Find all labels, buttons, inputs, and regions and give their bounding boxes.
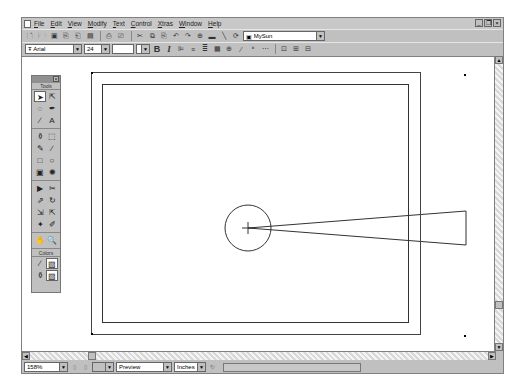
paragraph-icon[interactable]: ⊞ — [291, 44, 301, 54]
italic-button[interactable]: I — [164, 44, 174, 54]
text-tool-icon[interactable]: A — [46, 115, 58, 126]
minimize-icon[interactable]: _ — [475, 19, 483, 27]
chevron-down-icon[interactable]: ▼ — [105, 363, 113, 371]
line-tool-icon[interactable]: ∕ — [34, 115, 46, 126]
selection-handle[interactable] — [91, 333, 93, 335]
view-mode-select[interactable]: Preview ▼ — [116, 362, 172, 372]
justify-icon[interactable]: ▦ — [212, 44, 222, 54]
scroll-up-icon[interactable]: ▲ — [495, 56, 503, 64]
cut-icon[interactable]: ✂ — [135, 31, 145, 41]
units-select[interactable]: Inches ▼ — [174, 362, 206, 372]
line-spacing-icon[interactable]: ⋯ — [260, 44, 270, 54]
menu-modify[interactable]: Modify — [88, 20, 107, 27]
align-left-icon[interactable]: ⊫ — [176, 44, 186, 54]
rotate-tool-icon[interactable]: ↻ — [46, 195, 58, 206]
vertical-scrollbar[interactable]: ▲ ▼ — [494, 56, 503, 351]
play-icon[interactable]: ▯ — [81, 363, 90, 372]
app-icon[interactable] — [24, 20, 31, 28]
brush-tool-icon[interactable]: ∕ — [46, 143, 58, 154]
chevron-down-icon[interactable]: ▼ — [163, 363, 171, 371]
chevron-down-icon[interactable]: ▼ — [101, 45, 109, 53]
zoom-tool-icon[interactable]: 🔍 — [46, 235, 58, 246]
align-right-icon[interactable]: ≣ — [200, 44, 210, 54]
close-icon[interactable]: × — [53, 76, 59, 82]
subselect-tool-icon[interactable]: ⇱ — [46, 91, 58, 102]
pen-tool-icon[interactable]: ✒ — [46, 103, 58, 114]
stroke-color-swatch[interactable]: ▨ — [46, 258, 58, 269]
selection-handle[interactable] — [464, 74, 466, 76]
open-icon[interactable]: 🗁 — [37, 31, 47, 41]
eraser-tool-icon[interactable]: ▶ — [34, 183, 46, 194]
skew-tool-icon[interactable]: ⇱ — [46, 207, 58, 218]
menu-text[interactable]: Text — [113, 20, 125, 27]
undo-icon[interactable]: ↶ — [171, 31, 181, 41]
text-color-dropdown[interactable]: ▼ — [136, 44, 150, 54]
arrow-tool-icon[interactable]: ➤ — [34, 91, 46, 102]
refresh-icon[interactable]: ↻ — [208, 363, 217, 372]
fill-tool-icon[interactable]: ▣ — [34, 167, 46, 178]
rectangle-tool-icon[interactable]: □ — [34, 155, 46, 166]
scene-select[interactable]: ▣ MySun ▼ — [243, 31, 325, 41]
transform-tool-icon[interactable]: ⇗ — [34, 195, 46, 206]
text-options-icon[interactable]: ⊟ — [303, 44, 313, 54]
chevron-down-icon[interactable]: ▼ — [141, 45, 149, 53]
envelope-tool-icon[interactable]: ✐ — [46, 219, 58, 230]
ink-bottle-tool-icon[interactable]: ⚱ — [34, 131, 46, 142]
align-center-icon[interactable]: ≡ — [188, 44, 198, 54]
lasso-tool-icon[interactable]: ◌ — [34, 103, 46, 114]
chevron-down-icon[interactable]: ▼ — [73, 45, 81, 53]
snap-icon[interactable]: ⊕ — [195, 31, 205, 41]
selection-handle[interactable] — [464, 335, 466, 337]
new-icon[interactable]: 🗋 — [25, 31, 35, 41]
scroll-left-icon[interactable]: ◀ — [22, 352, 30, 360]
fill-color-swatch[interactable]: ▨ — [46, 270, 58, 281]
selection-handle[interactable] — [91, 72, 93, 74]
tools-panel-titlebar[interactable]: × — [32, 76, 60, 83]
menu-edit[interactable]: Edit — [51, 20, 62, 27]
horizontal-scrollbar[interactable]: ◀ ▶ — [22, 351, 496, 360]
eyedropper-tool-icon[interactable]: ✂ — [46, 183, 58, 194]
menu-view[interactable]: View — [68, 20, 82, 27]
chevron-down-icon[interactable]: ▼ — [59, 363, 67, 371]
rotate-icon[interactable]: ⟳ — [231, 31, 241, 41]
menu-help[interactable]: Help — [208, 20, 221, 27]
menu-file[interactable]: File — [34, 20, 45, 27]
chevron-down-icon[interactable]: ▼ — [316, 32, 324, 40]
kerning-icon[interactable]: ⊕ — [224, 44, 234, 54]
free-transform-tool-icon[interactable]: ⬚ — [46, 131, 58, 142]
gradient-tool-icon[interactable]: ✺ — [46, 167, 58, 178]
scroll-down-icon[interactable]: ▼ — [495, 343, 503, 351]
scale-tool-icon[interactable]: ⇲ — [34, 207, 46, 218]
close-icon[interactable]: × — [493, 19, 501, 27]
copy-icon[interactable]: ⧉ — [147, 31, 157, 41]
import-icon[interactable]: ⎘ — [61, 31, 71, 41]
export-icon[interactable]: ⎗ — [73, 31, 83, 41]
menu-window[interactable]: Window — [179, 20, 202, 27]
bold-button[interactable]: B — [152, 44, 162, 54]
text-box-icon[interactable]: ⊡ — [279, 44, 289, 54]
publish-icon[interactable]: ▤ — [85, 31, 95, 41]
font-size-select[interactable]: 24 ▼ — [84, 44, 110, 54]
distort-tool-icon[interactable]: ✦ — [34, 219, 46, 230]
hand-tool-icon[interactable]: ✋ — [34, 235, 46, 246]
save-icon[interactable]: ▣ — [49, 31, 59, 41]
superscript-icon[interactable]: ˟ — [248, 44, 258, 54]
pencil-tool-icon[interactable]: ✎ — [34, 143, 46, 154]
vertical-scroll-thumb[interactable] — [495, 301, 503, 309]
print-preview-icon[interactable]: ⎚ — [116, 31, 126, 41]
paste-icon[interactable]: ⎘ — [159, 31, 169, 41]
first-frame-icon[interactable]: ▯ — [70, 363, 79, 372]
straighten-icon[interactable]: ╲ — [219, 31, 229, 41]
text-color-field[interactable] — [112, 44, 134, 54]
zoom-select[interactable]: 158% ▼ — [24, 362, 68, 372]
frame-select[interactable]: ▼ — [92, 362, 114, 372]
horizontal-scroll-thumb[interactable] — [88, 352, 96, 360]
scroll-right-icon[interactable]: ▶ — [488, 352, 496, 360]
font-select[interactable]: Ŧ Arial ▼ — [25, 44, 82, 54]
smooth-icon[interactable]: ▬ — [207, 31, 217, 41]
character-spacing-icon[interactable]: ⁄ — [236, 44, 246, 54]
oval-tool-icon[interactable]: ○ — [46, 155, 58, 166]
redo-icon[interactable]: ↷ — [183, 31, 193, 41]
chevron-down-icon[interactable]: ▼ — [197, 363, 205, 371]
print-icon[interactable]: ⎙ — [104, 31, 114, 41]
